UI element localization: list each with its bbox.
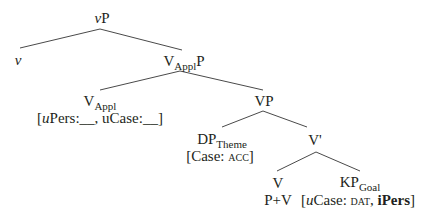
node-v: v [15,52,22,68]
edge-vP-VApplP [100,29,182,50]
node-V: V [273,175,284,191]
VApplP-subscript: Appl [174,60,196,72]
node-VP: VP [254,93,273,109]
V-content-text: P+V [264,192,292,208]
DPTheme-features: [Case: acc] [186,148,254,165]
edge-Vbar-V [277,152,316,171]
V-content: P+V [264,192,292,208]
v-label: v [15,52,22,68]
bracket-close: ] [249,148,254,164]
V-label: V [273,175,284,191]
vP-suffix: P [101,10,109,26]
DPTheme-base: DP [197,131,216,147]
edge-vP-v [20,29,100,48]
separator: , [370,192,378,208]
VAppl-base: V [84,93,95,109]
node-VAppl: VAppl [84,93,117,110]
KPGoal-base: KP [340,174,359,190]
VApplP-base: V [163,53,174,69]
uCase-u: u [306,192,314,208]
edge-VApplP-VAppl [100,71,180,90]
DPTheme-case-value: acc [228,149,249,164]
edge-VP-DPTheme [222,111,263,127]
VAppl-feature-text: Pers:__, uCase:__ [50,110,158,126]
Vbar-label: V' [308,132,322,148]
edge-Vbar-KPGoal [316,152,360,171]
VApplP-suffix: P [196,53,204,69]
KPGoal-case-label: Case: [313,192,350,208]
DPTheme-case-label: [Case: [186,148,228,164]
vP-italic-v: v [94,10,101,26]
node-VApplP: VApplP [163,53,204,70]
edge-VP-Vbar [263,111,307,127]
VAppl-features: [uPers:__, uCase:__] [37,110,163,126]
VP-label: VP [254,93,273,109]
node-DPTheme: DPTheme [197,131,247,148]
KPGoal-case-value: dat [351,193,370,208]
uPers-u: u [42,110,50,126]
iPers-feature: iPers [378,192,410,208]
bracket-close: ] [158,110,163,126]
bracket-close: ] [410,192,415,208]
KPGoal-features: [uCase: dat, iPers] [301,192,415,209]
edge-VApplP-VP [180,71,263,90]
node-KPGoal: KPGoal [340,174,381,191]
node-Vbar: V' [308,132,322,148]
node-vP: vP [94,10,109,26]
